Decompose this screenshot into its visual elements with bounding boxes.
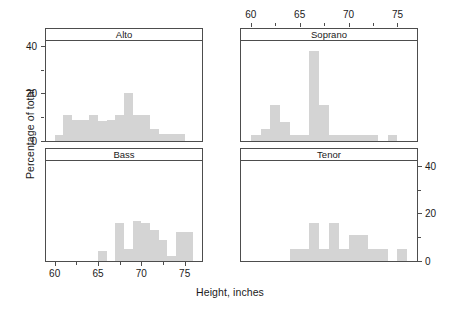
histogram-bar [251,135,261,141]
histogram-bar [124,93,133,141]
x-axis-tick-label: 60 [245,9,256,20]
x-axis-tick-mark [185,262,186,266]
histogram-bar [167,256,176,261]
panel-bass: Bass [45,148,203,262]
plot-area-bass [45,161,203,262]
histogram-bar [349,135,359,141]
x-axis-tick-mark [98,262,99,266]
y-axis-tick-label: 0 [425,256,431,267]
y-axis-tick-mark [418,261,422,262]
x-axis-tick-label: 65 [294,9,305,20]
histogram-bar [300,135,310,141]
x-axis-tick-label: 70 [136,268,147,279]
y-axis-tick-mark [418,166,422,167]
panel-tenor: Tenor [240,148,418,262]
y-axis-tick-label: 0 [31,136,37,147]
histogram-bar [339,135,349,141]
bar-group [241,41,417,141]
y-axis-tick-label: 20 [425,208,436,219]
y-axis-tick-mark [41,93,45,94]
x-axis-tick-mark [373,23,374,26]
x-axis-tick-mark [141,262,142,266]
x-axis-tick-mark [397,23,398,27]
histogram-bar [89,115,98,141]
histogram-bar [378,249,388,261]
histogram-bar [133,115,142,141]
x-axis-tick-label: 75 [392,9,403,20]
panel-strip-label-tenor: Tenor [240,148,418,161]
y-axis-tick-mark [41,141,45,142]
histogram-bar [124,249,133,261]
x-axis-tick-mark [76,262,77,265]
histogram-bar [98,251,107,261]
histogram-bar [176,134,185,141]
histogram-bar [115,115,124,141]
y-axis-tick-mark [418,213,422,214]
y-axis-tick-label: 40 [425,160,436,171]
histogram-bar [107,120,116,141]
y-axis-title: Percentage of total [24,49,36,219]
histogram-bar [368,249,378,261]
histogram-bar [141,115,150,141]
panel-alto: Alto [45,28,203,142]
histogram-bar [319,249,329,261]
trellis-histogram-figure: Percentage of total Height, inches AltoS… [0,0,449,309]
x-axis-tick-mark [324,23,325,26]
histogram-bar [309,223,319,261]
bar-group [241,161,417,261]
histogram-bar [115,223,124,261]
panel-strip-label-bass: Bass [45,148,203,161]
histogram-bar [133,221,142,261]
x-axis-tick-mark [55,262,56,266]
histogram-bar [176,232,185,261]
x-axis-tick-mark [120,262,121,265]
y-axis-tick-mark [41,117,44,118]
histogram-bar [368,135,378,141]
x-axis-tick-label: 70 [343,9,354,20]
x-axis-tick-mark [251,23,252,27]
x-axis-tick-mark [163,262,164,265]
histogram-bar [280,122,290,141]
y-axis-tick-label: 20 [26,88,37,99]
histogram-bar [63,115,72,141]
histogram-bar [329,223,339,261]
histogram-bar [261,129,271,141]
y-axis-tick-mark [418,190,421,191]
x-axis-tick-mark [349,23,350,27]
panel-strip-label-alto: Alto [45,28,203,41]
histogram-bar [185,232,194,261]
histogram-bar [329,135,339,141]
x-axis-tick-label: 60 [49,268,60,279]
histogram-bar [98,121,107,141]
bar-group [46,41,202,141]
y-axis-tick-mark [41,70,44,71]
histogram-bar [55,135,64,141]
bar-group [46,161,202,261]
x-axis-title: Height, inches [40,286,420,298]
histogram-bar [309,51,319,141]
histogram-bar [339,249,349,261]
panel-strip-label-soprano: Soprano [240,28,418,41]
histogram-bar [319,105,329,141]
histogram-bar [72,120,81,141]
histogram-bar [159,240,168,261]
y-axis-tick-mark [418,237,421,238]
histogram-bar [358,135,368,141]
histogram-bar [167,134,176,141]
panel-soprano: Soprano [240,28,418,142]
histogram-bar [81,120,90,141]
x-axis-tick-label: 65 [92,268,103,279]
histogram-bar [141,223,150,261]
histogram-bar [159,134,168,141]
x-axis-tick-mark [300,23,301,27]
histogram-bar [150,129,159,141]
y-axis-tick-label: 40 [26,40,37,51]
histogram-bar [349,235,359,261]
plot-area-tenor [240,161,418,262]
histogram-bar [358,235,368,261]
histogram-bar [270,105,280,141]
plot-area-soprano [240,41,418,142]
x-axis-tick-mark [275,23,276,26]
histogram-bar [388,135,398,141]
histogram-bar [290,249,300,261]
